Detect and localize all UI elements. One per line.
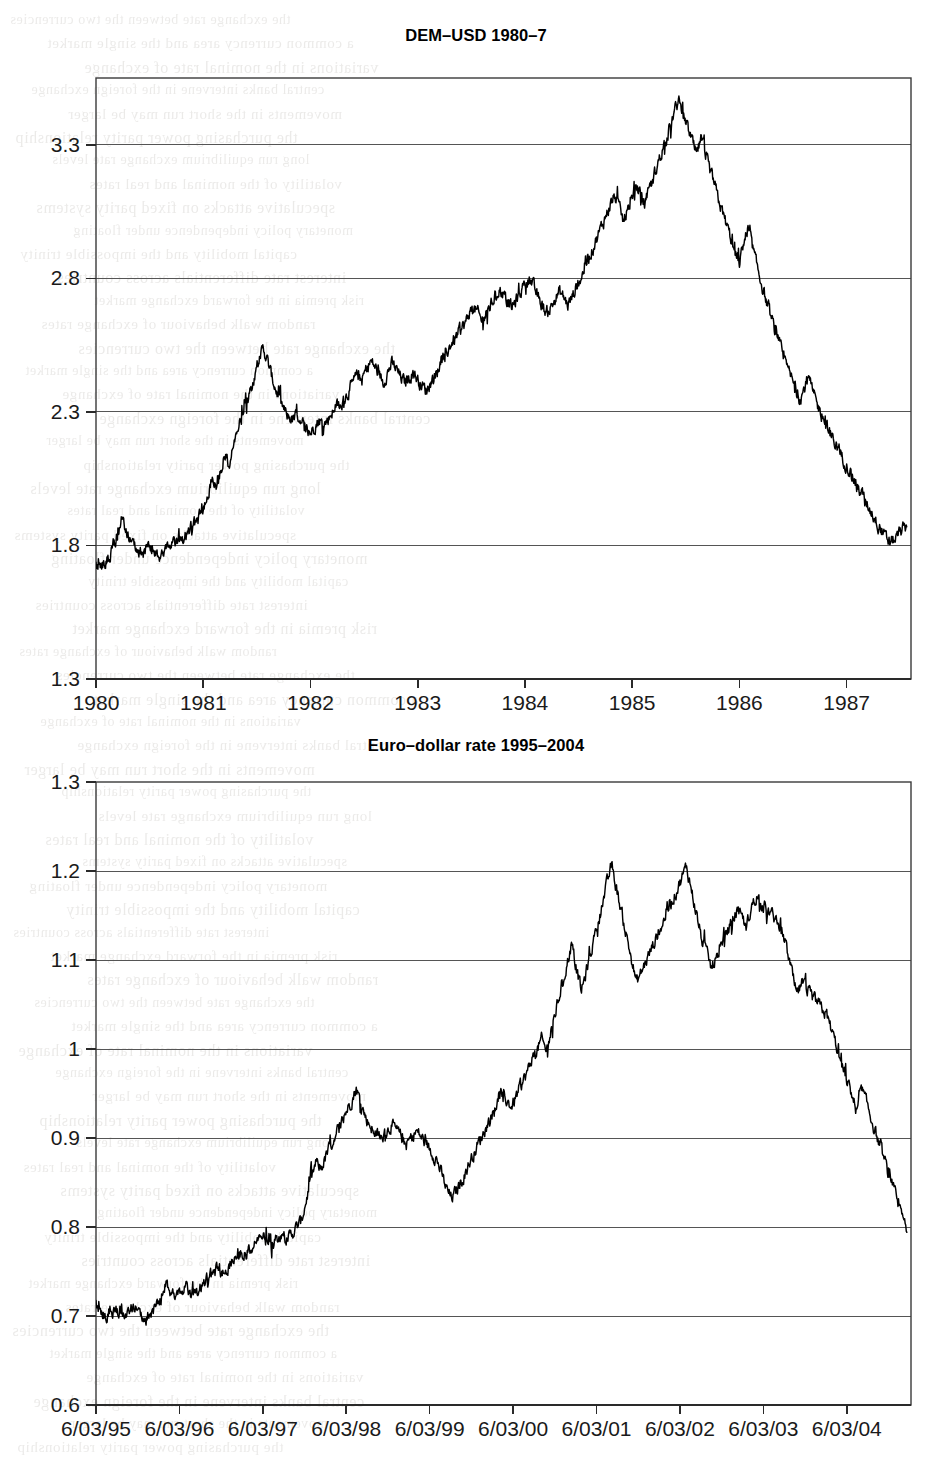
y-axis-tick-label: 1.3: [51, 770, 80, 793]
x-axis-tick-label: 6/03/98: [311, 1417, 381, 1440]
y-axis-tick-label: 0.8: [51, 1215, 80, 1238]
y-axis-tick-label: 0.7: [51, 1304, 80, 1327]
x-axis-tick-label: 6/03/02: [645, 1417, 715, 1440]
x-axis-tick-label: 1987: [823, 691, 870, 714]
chart-title-euro-dollar: Euro–dollar rate 1995–2004: [0, 736, 952, 755]
x-axis-tick-label: 1983: [394, 691, 441, 714]
x-axis-tick-label: 6/03/01: [561, 1417, 631, 1440]
x-axis-tick-label: 6/03/97: [228, 1417, 298, 1440]
plot-svg-dem-usd: 1.31.82.32.83.31980198119821983198419851…: [0, 54, 952, 714]
plot-area-euro-dollar: 0.60.70.80.911.11.21.36/03/956/03/966/03…: [0, 764, 952, 1444]
x-axis-tick-label: 6/03/00: [478, 1417, 548, 1440]
x-axis-tick-label: 6/03/95: [61, 1417, 131, 1440]
y-axis-tick-label: 2.8: [51, 266, 80, 289]
y-axis-tick-label: 1.3: [51, 667, 80, 690]
x-axis-tick-label: 6/03/03: [728, 1417, 798, 1440]
x-axis-tick-label: 6/03/96: [144, 1417, 214, 1440]
x-axis-tick-label: 1986: [716, 691, 763, 714]
x-axis-tick-label: 1980: [73, 691, 120, 714]
x-axis-tick-label: 1985: [609, 691, 656, 714]
x-axis-tick-label: 6/03/04: [812, 1417, 882, 1440]
x-axis-tick-label: 6/03/99: [395, 1417, 465, 1440]
plot-frame: [96, 78, 911, 679]
chart-title-dem-usd: DEM–USD 1980–7: [0, 26, 952, 45]
chart-figure-dem-usd: DEM–USD 1980–7 1.31.82.32.83.31980198119…: [0, 26, 952, 716]
y-axis-tick-label: 1.1: [51, 948, 80, 971]
chart-figure-euro-dollar: Euro–dollar rate 1995–2004 0.60.70.80.91…: [0, 736, 952, 1442]
y-axis-tick-label: 1.2: [51, 859, 80, 882]
series-line-euro-dollar: [96, 862, 907, 1325]
series-line-dem-usd: [96, 96, 907, 569]
plot-svg-euro-dollar: 0.60.70.80.911.11.21.36/03/956/03/966/03…: [0, 764, 952, 1444]
y-axis-tick-label: 3.3: [51, 133, 80, 156]
x-axis-tick-label: 1981: [180, 691, 227, 714]
y-axis-tick-label: 0.6: [51, 1393, 80, 1416]
y-axis-tick-label: 0.9: [51, 1126, 80, 1149]
y-axis-tick-label: 1.8: [51, 533, 80, 556]
x-axis-tick-label: 1982: [287, 691, 334, 714]
y-axis-tick-label: 2.3: [51, 400, 80, 423]
y-axis-tick-label: 1: [68, 1037, 80, 1060]
bleed-text-line: variations in the nominal rate of exchan…: [40, 714, 301, 730]
plot-area-dem-usd: 1.31.82.32.83.31980198119821983198419851…: [0, 54, 952, 714]
x-axis-tick-label: 1984: [502, 691, 549, 714]
